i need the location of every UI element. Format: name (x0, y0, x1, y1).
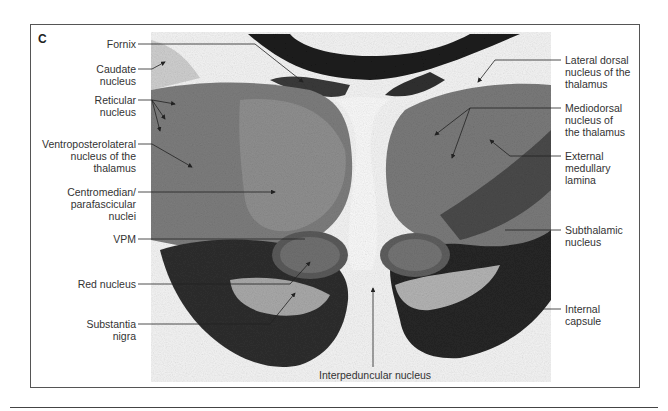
label-ventroposterolateral-nucleus: Ventroposterolateral nucleus of the thal… (42, 138, 136, 174)
label-lateral-dorsal-nucleus: Lateral dorsal nucleus of the thalamus (565, 54, 630, 90)
label-external-medullary-lamina: External medullary lamina (565, 150, 611, 186)
label-substantia-nigra: Substantia nigra (86, 318, 136, 342)
label-fornix: Fornix (107, 38, 136, 50)
label-vpm: VPM (113, 233, 136, 245)
label-red-nucleus: Red nucleus (78, 278, 136, 290)
label-interpeduncular-nucleus: Interpeduncular nucleus (319, 369, 431, 381)
label-mediodorsal-nucleus: Mediodorsal nucleus of the thalamus (565, 102, 625, 138)
label-centromedian-parafascicular: Centromedian/ parafascicular nuclei (67, 186, 136, 222)
label-caudate-nucleus: Caudate nucleus (96, 63, 136, 87)
label-internal-capsule: Internal capsule (565, 303, 601, 327)
label-reticular-nucleus: Reticular nucleus (95, 94, 136, 118)
label-subthalamic-nucleus: Subthalamic nucleus (565, 224, 623, 248)
